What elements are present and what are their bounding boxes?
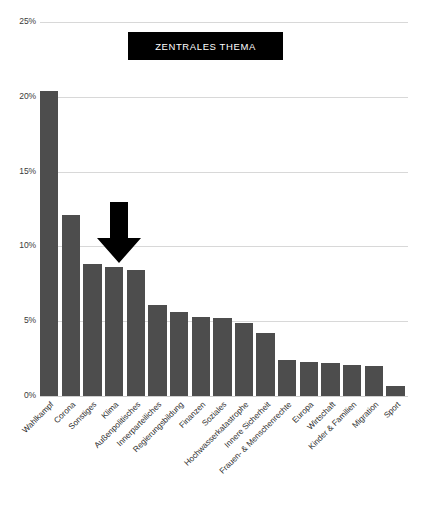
- chart-title-badge: ZENTRALES THEMA: [128, 32, 283, 60]
- bar: [365, 366, 383, 396]
- y-tick-label: 25%: [2, 17, 36, 26]
- down-arrow-icon: [96, 202, 142, 264]
- bar: [105, 267, 123, 396]
- x-axis-labels: WahlkampfCoronaSonstigesKlimaAußenpoliti…: [0, 396, 421, 507]
- bar: [343, 365, 361, 396]
- bar-chart: 0%5%10%15%20%25% WahlkampfCoronaSonstige…: [0, 0, 421, 507]
- bar: [192, 317, 210, 396]
- bar: [40, 91, 58, 396]
- bar: [278, 360, 296, 396]
- bar: [321, 363, 339, 396]
- chart-title-text: ZENTRALES THEMA: [155, 41, 256, 52]
- bar: [256, 333, 274, 396]
- bar: [83, 264, 101, 396]
- bar: [235, 323, 253, 396]
- bar: [148, 305, 166, 396]
- bar: [127, 270, 145, 396]
- y-tick-label: 15%: [2, 167, 36, 176]
- y-tick-label: 20%: [2, 92, 36, 101]
- y-axis: 0%5%10%15%20%25%: [0, 22, 36, 396]
- y-tick-label: 10%: [2, 241, 36, 250]
- bar: [170, 312, 188, 396]
- bar: [300, 362, 318, 396]
- bar: [386, 386, 404, 396]
- y-tick-label: 5%: [2, 316, 36, 325]
- bar: [62, 215, 80, 396]
- bar: [213, 318, 231, 396]
